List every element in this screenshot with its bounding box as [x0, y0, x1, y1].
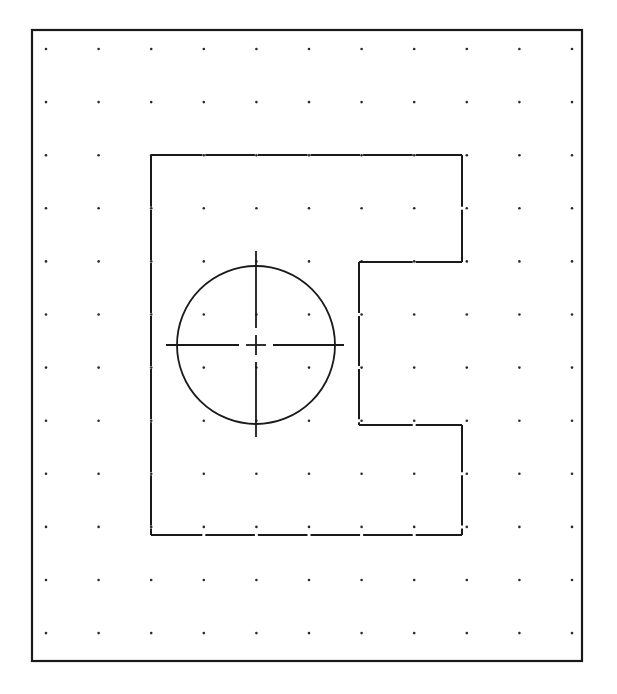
grid-dot [150, 313, 153, 316]
grid-dot [360, 526, 363, 529]
grid-dot [150, 526, 153, 529]
grid-dot [203, 48, 206, 51]
grid-dot [466, 313, 469, 316]
grid-dot [466, 632, 469, 635]
grid-dot [203, 579, 206, 582]
circular-hole[interactable] [166, 251, 344, 437]
grid-dot [571, 207, 574, 210]
grid-dot [45, 366, 48, 369]
grid-dot [150, 473, 153, 476]
grid-dot [203, 526, 206, 529]
grid-dot [45, 207, 48, 210]
grid-dot [571, 48, 574, 51]
grid-dot [413, 101, 416, 104]
grid-dot [203, 101, 206, 104]
grid-dot [413, 260, 416, 263]
grid-dot [45, 579, 48, 582]
grid-dot [360, 101, 363, 104]
grid-dot [150, 48, 153, 51]
grid-dot [308, 366, 311, 369]
grid-dot [97, 632, 100, 635]
grid-dot [308, 526, 311, 529]
grid-dot [97, 419, 100, 422]
grid-dot [518, 260, 521, 263]
grid-dot [255, 48, 258, 51]
grid-dot [571, 313, 574, 316]
grid-dot [413, 632, 416, 635]
grid-dot [45, 526, 48, 529]
grid-dot [150, 260, 153, 263]
grid-dot [571, 260, 574, 263]
grid-dot [97, 313, 100, 316]
grid-dot [308, 207, 311, 210]
grid-dot [203, 260, 206, 263]
grid-dot [203, 154, 206, 157]
grid-dot [360, 419, 363, 422]
grid-dot [45, 419, 48, 422]
grid-dot [150, 101, 153, 104]
grid-dot [150, 366, 153, 369]
grid-dot [518, 48, 521, 51]
grid-dot [518, 313, 521, 316]
grid-dot [97, 526, 100, 529]
grid-dot [518, 419, 521, 422]
grid-dot [413, 154, 416, 157]
grid-dot [45, 260, 48, 263]
grid-dot [571, 579, 574, 582]
grid-dot [308, 632, 311, 635]
grid-dot [466, 579, 469, 582]
grid-dot [571, 101, 574, 104]
grid-dot [360, 579, 363, 582]
grid-dot [360, 632, 363, 635]
grid-dot [45, 154, 48, 157]
grid-dot [203, 207, 206, 210]
grid-dot [413, 419, 416, 422]
grid-dot [45, 48, 48, 51]
grid-dot [150, 579, 153, 582]
grid-dot [518, 207, 521, 210]
snap-grid [45, 48, 574, 635]
grid-dot [518, 632, 521, 635]
grid-dot [466, 366, 469, 369]
grid-dot [255, 526, 258, 529]
grid-dot [518, 101, 521, 104]
grid-dot [97, 207, 100, 210]
grid-dot [466, 101, 469, 104]
grid-dot [255, 579, 258, 582]
hole-centerlines [166, 251, 344, 437]
grid-dot [97, 366, 100, 369]
grid-dot [203, 419, 206, 422]
grid-dot [413, 366, 416, 369]
grid-dot [360, 154, 363, 157]
grid-dot [571, 632, 574, 635]
grid-dot [571, 154, 574, 157]
grid-dot [97, 101, 100, 104]
grid-dot [97, 579, 100, 582]
grid-dot [308, 313, 311, 316]
grid-dot [308, 473, 311, 476]
grid-dot [97, 473, 100, 476]
grid-dot [308, 154, 311, 157]
grid-dot [308, 48, 311, 51]
drawing-canvas[interactable] [0, 0, 617, 694]
grid-dot [150, 632, 153, 635]
grid-dot [45, 473, 48, 476]
grid-dot [360, 313, 363, 316]
grid-dot [255, 632, 258, 635]
grid-dot [413, 526, 416, 529]
grid-dot [571, 419, 574, 422]
grid-dot [203, 313, 206, 316]
grid-dot [518, 154, 521, 157]
grid-dot [150, 207, 153, 210]
grid-dot [308, 260, 311, 263]
grid-dot [97, 154, 100, 157]
grid-dot [308, 579, 311, 582]
grid-dot [360, 48, 363, 51]
grid-dot [203, 473, 206, 476]
grid-dot [308, 419, 311, 422]
grid-dot [360, 473, 363, 476]
grid-dot [97, 48, 100, 51]
grid-dot [97, 260, 100, 263]
grid-dot [466, 473, 469, 476]
grid-dot [45, 313, 48, 316]
